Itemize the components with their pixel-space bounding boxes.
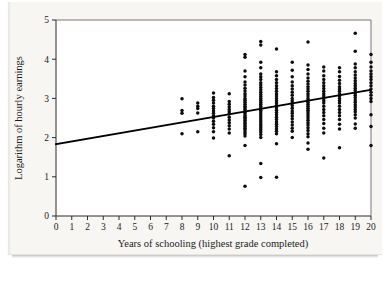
data-point xyxy=(259,40,263,44)
data-point xyxy=(275,78,279,82)
data-point xyxy=(369,81,373,85)
y-tick-label: 5 xyxy=(44,15,49,25)
data-point xyxy=(291,126,295,130)
data-point xyxy=(212,119,216,123)
y-tick-label: 2 xyxy=(44,133,49,143)
data-point xyxy=(322,118,326,122)
data-point xyxy=(243,134,247,138)
data-point xyxy=(354,126,358,130)
data-point xyxy=(291,90,295,94)
data-point xyxy=(369,61,373,64)
data-point xyxy=(338,79,342,83)
x-tick-label: 19 xyxy=(351,222,361,232)
x-tick-label: 5 xyxy=(132,222,137,232)
x-tick-label: 17 xyxy=(319,222,329,232)
data-point xyxy=(338,111,342,115)
data-point xyxy=(275,142,279,146)
data-point xyxy=(243,83,247,87)
data-point xyxy=(243,184,247,188)
data-point xyxy=(306,148,310,152)
data-point xyxy=(259,78,263,82)
data-point xyxy=(306,129,310,133)
data-point xyxy=(369,113,373,117)
data-point xyxy=(306,76,310,80)
x-tick-label: 14 xyxy=(272,222,282,232)
data-point xyxy=(228,154,232,158)
data-point xyxy=(259,176,263,180)
data-point xyxy=(180,132,184,136)
data-point xyxy=(306,63,310,67)
data-point xyxy=(369,53,373,57)
data-point xyxy=(354,70,358,74)
data-point xyxy=(259,136,263,140)
data-point xyxy=(212,91,216,95)
data-point xyxy=(259,66,263,70)
x-tick-label: 11 xyxy=(225,222,234,232)
data-point xyxy=(259,43,263,47)
data-point xyxy=(338,66,342,70)
data-point xyxy=(338,146,342,150)
data-point xyxy=(322,104,326,108)
x-tick-label: 10 xyxy=(209,222,219,232)
data-point xyxy=(228,92,232,96)
data-point xyxy=(369,94,373,98)
y-axis-label: Logarithm of hourly earnings xyxy=(13,56,24,180)
data-point xyxy=(322,65,326,69)
y-tick-label: 1 xyxy=(44,172,49,182)
data-point xyxy=(275,74,279,78)
data-point xyxy=(369,144,373,148)
data-point xyxy=(338,104,342,108)
data-point xyxy=(291,84,295,88)
data-point xyxy=(243,144,247,148)
data-point xyxy=(338,82,342,86)
data-point xyxy=(369,84,373,88)
data-point xyxy=(322,101,326,105)
data-point xyxy=(306,40,310,44)
scatter-plot-svg: 012345 01234567891011121314151617181920 … xyxy=(0,0,389,281)
data-point xyxy=(306,72,310,76)
data-point xyxy=(322,78,326,82)
data-point xyxy=(369,97,373,101)
data-point xyxy=(338,123,342,127)
data-point xyxy=(291,130,295,134)
data-point xyxy=(338,114,342,118)
x-tick-label: 2 xyxy=(85,222,90,232)
x-tick-label: 13 xyxy=(256,222,266,232)
data-point xyxy=(243,69,247,73)
x-tick-label: 16 xyxy=(303,222,313,232)
data-point xyxy=(212,136,216,140)
x-tick-label: 6 xyxy=(148,222,153,232)
data-point xyxy=(322,74,326,78)
data-point xyxy=(291,75,295,79)
data-point xyxy=(259,61,263,64)
data-point xyxy=(322,81,326,85)
x-tick-label: 18 xyxy=(335,222,345,232)
data-point xyxy=(322,108,326,112)
data-point xyxy=(354,73,358,77)
data-point xyxy=(228,124,232,128)
y-tick-label: 3 xyxy=(44,94,49,104)
data-point xyxy=(196,111,200,115)
data-point xyxy=(196,130,200,134)
x-tick-label: 20 xyxy=(366,222,376,232)
x-tick-label: 4 xyxy=(117,222,122,232)
data-point xyxy=(354,110,358,114)
data-point xyxy=(338,127,342,131)
data-point xyxy=(322,114,326,118)
data-point xyxy=(354,62,358,66)
data-point xyxy=(369,65,373,69)
data-point xyxy=(322,111,326,115)
data-point xyxy=(212,130,216,134)
data-point xyxy=(212,101,216,105)
data-point xyxy=(322,126,326,130)
data-point xyxy=(338,118,342,122)
data-point xyxy=(212,123,216,127)
data-point xyxy=(180,97,184,101)
x-tick-label: 0 xyxy=(54,222,59,232)
data-point xyxy=(275,70,279,74)
data-point xyxy=(369,69,373,73)
data-point xyxy=(354,32,358,36)
data-point xyxy=(291,120,295,124)
data-point xyxy=(243,55,247,59)
data-point xyxy=(291,117,295,121)
